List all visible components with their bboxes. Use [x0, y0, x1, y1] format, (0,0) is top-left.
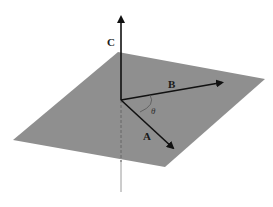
label-a: A [143, 130, 151, 142]
label-c: C [107, 36, 115, 48]
cross-product-diagram: C B A θ [0, 0, 273, 207]
plane [13, 52, 265, 167]
diagram-canvas: C B A θ [0, 0, 273, 207]
label-b: B [168, 78, 176, 90]
label-theta: θ [151, 106, 156, 116]
